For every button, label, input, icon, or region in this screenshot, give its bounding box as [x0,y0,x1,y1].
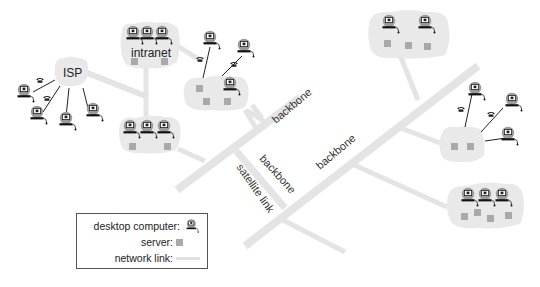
server-icon [176,239,183,246]
server-icon [161,58,168,65]
server-icon [467,143,474,150]
server-icon [405,42,412,49]
desktop-computer-icon [204,31,221,50]
desktop-computer-icon [87,103,104,122]
legend: desktop computer: server: network link: [76,213,208,269]
desktop-computer-icon [183,218,201,234]
legend-row-link: network link: [115,252,200,264]
server-icon [131,58,138,65]
isp-dialup-users [18,78,104,131]
legend-server-label: server: [141,236,173,248]
desktop-computer-icon [506,93,523,112]
server-icon [196,85,203,92]
intranet-cloud: intranet [120,22,179,69]
server-icon [451,143,458,150]
desktop-computer-icon [502,127,519,146]
desktop-computer-icon [60,112,77,131]
server-icon [461,213,468,220]
telephone-icon [44,96,51,101]
lan-left-lower-cloud [119,116,181,154]
dialup-hub-left-cloud [184,76,249,111]
lan-top-right-cloud [368,10,449,59]
server-icon [203,98,210,105]
server-icon [424,43,431,50]
legend-row-server: server: [141,236,183,248]
lan-bottom-right-cloud [447,182,524,228]
hub-left-dialup-users [197,31,255,78]
network-link-swatch [176,257,200,260]
server-icon [164,143,171,150]
telephone-icon [458,107,465,112]
intranet-label: intranet [131,46,172,60]
server-icon [474,209,481,216]
desktop-computer-icon [238,39,255,58]
legend-row-desktop: desktop computer: [94,218,201,234]
desktop-computer-icon [18,84,35,103]
server-icon [224,98,231,105]
legend-link-label: network link: [115,252,173,264]
server-icon [384,40,391,47]
server-icon [487,215,494,222]
isp-label: ISP [63,66,82,80]
backbone-label: backbone [270,86,314,126]
dialup-hub-right-cloud [439,126,484,162]
server-icon [129,143,136,150]
telephone-icon [37,78,44,83]
telephone-icon [488,112,495,117]
isp-cloud: ISP [55,57,89,87]
server-icon [505,212,512,219]
legend-desktop-label: desktop computer: [94,220,180,232]
